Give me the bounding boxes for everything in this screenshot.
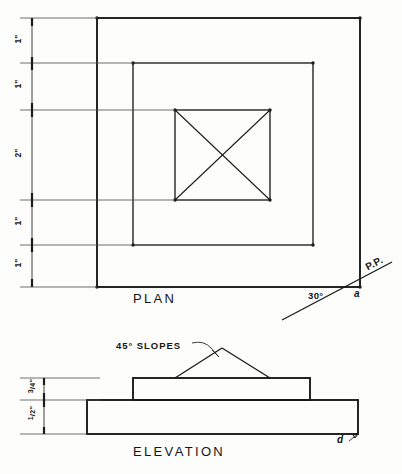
plan-dim-label-4: 1": [13, 253, 23, 273]
plan-view-geometry: [97, 18, 360, 287]
elevation-dim-fraction-0: 3/4": [27, 379, 37, 394]
plan-outer-square: [97, 18, 360, 287]
elevation-slope-note: 45° SLOPES: [116, 340, 181, 351]
plan-angle-label: 30°: [308, 290, 324, 301]
slope-note-leader: [192, 342, 219, 357]
plan-point-a-label: a: [354, 288, 360, 299]
plan-dim-label-2: 2": [13, 143, 23, 163]
drawing-canvas: [0, 0, 402, 474]
elevation-point-d-label: d: [337, 434, 344, 445]
plan-corner-dots: [95, 16, 361, 288]
plan-dim-label-3: 1": [13, 211, 23, 231]
elevation-title: ELEVATION: [133, 444, 225, 459]
elevation-view-geometry: [87, 342, 358, 434]
plan-dim-label-0: 1": [13, 29, 23, 49]
elevation-upper-block: [133, 378, 310, 400]
elevation-dim-fraction-1: 1/2": [27, 406, 37, 421]
point-d-marker: [349, 434, 358, 441]
elevation-roof-right-slope: [222, 348, 270, 378]
picture-plane-line: [282, 262, 392, 320]
plan-title: PLAN: [133, 291, 176, 306]
elevation-dim-label-0: 3/4": [27, 375, 37, 397]
elevation-dim-label-1: 1/2": [27, 402, 37, 424]
drawing-sheet: 1" 1" 2" 1" 1" PLAN 30° P.P. a 45° SLOPE…: [0, 0, 402, 474]
picture-plane-group: [282, 262, 392, 320]
elevation-base-slab: [87, 400, 358, 434]
plan-dim-label-1: 1": [13, 74, 23, 94]
